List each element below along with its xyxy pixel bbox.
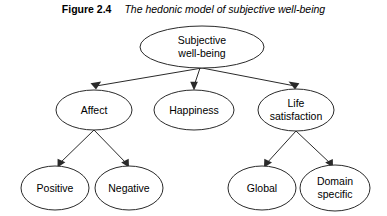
node-positive[interactable]: Positive <box>21 166 89 210</box>
node-label-line2: well-being <box>177 47 225 59</box>
node-label-line1: Affect <box>81 104 108 116</box>
edge-affect-to-positive <box>58 130 95 168</box>
edge-root-to-happiness <box>190 68 200 91</box>
node-life-satisfaction[interactable]: Life satisfaction <box>258 89 334 131</box>
edge-line <box>96 68 202 86</box>
node-label-line1: Negative <box>108 182 150 194</box>
node-subjective-well-being[interactable]: Subjective well-being <box>140 26 264 68</box>
edge-root-to-life-satisfaction <box>202 68 299 90</box>
node-group: Subjective well-being Affect Happiness L… <box>21 26 370 211</box>
hedonic-model-diagram: Subjective well-being Affect Happiness L… <box>0 0 387 216</box>
edge-line <box>202 68 295 86</box>
node-label-line2: satisfaction <box>270 110 323 122</box>
edge-line <box>266 131 296 164</box>
node-label-line1: Global <box>247 182 277 194</box>
node-label-line1: Subjective <box>178 34 227 46</box>
node-global[interactable]: Global <box>228 166 296 210</box>
node-label-line1: Happiness <box>169 104 219 116</box>
edge-life-satisfaction-to-domain-specific <box>296 131 333 168</box>
edge-line <box>59 130 94 164</box>
node-domain-specific[interactable]: Domain specific <box>300 165 370 211</box>
node-label-line1: Positive <box>37 182 74 194</box>
node-label-line1: Life <box>288 97 305 109</box>
node-negative[interactable]: Negative <box>95 166 163 210</box>
edge-affect-to-negative <box>94 130 129 168</box>
node-label-line1: Domain <box>317 175 353 187</box>
arrowhead-icon <box>190 82 198 91</box>
edge-line <box>94 130 127 164</box>
edge-root-to-affect <box>91 68 203 90</box>
node-happiness[interactable]: Happiness <box>154 90 234 130</box>
edge-line <box>296 131 331 164</box>
edge-life-satisfaction-to-global <box>264 131 296 168</box>
node-label-line2: specific <box>317 188 352 200</box>
node-affect[interactable]: Affect <box>56 90 132 130</box>
